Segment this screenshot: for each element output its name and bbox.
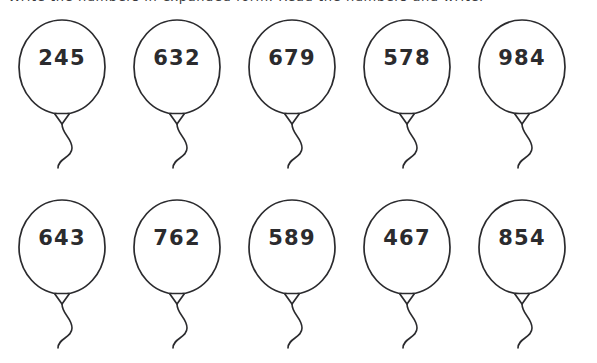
balloon-outline-icon [125,192,241,362]
balloon-number-label: 467 [355,228,459,249]
balloon-number-label: 632 [125,48,229,69]
worksheet-canvas: Write the numbers in expanded form. Read… [0,0,597,363]
balloon-number-label: 643 [10,228,114,249]
balloon-number-label: 245 [10,48,114,69]
balloon-number-label: 854 [470,228,574,249]
balloon[interactable]: 643 [10,192,126,362]
balloon-outline-icon [240,192,356,362]
balloon[interactable]: 467 [355,192,471,362]
header-instruction-text: Write the numbers in expanded form. Read… [8,0,484,4]
balloon-number-label: 984 [470,48,574,69]
balloon[interactable]: 679 [240,12,356,182]
balloon-outline-icon [355,12,471,182]
balloon[interactable]: 854 [470,192,586,362]
balloon[interactable]: 589 [240,192,356,362]
balloon-outline-icon [470,192,586,362]
balloon-number-label: 679 [240,48,344,69]
balloon[interactable]: 578 [355,12,471,182]
balloon[interactable]: 632 [125,12,241,182]
balloon-outline-icon [240,12,356,182]
balloon-row-top: 245 632 679 578 984 [0,12,597,182]
balloon-number-label: 589 [240,228,344,249]
balloon-number-label: 578 [355,48,459,69]
balloon[interactable]: 245 [10,12,126,182]
balloon[interactable]: 984 [470,12,586,182]
balloon-outline-icon [470,12,586,182]
balloon-outline-icon [125,12,241,182]
clipped-header-strip: Write the numbers in expanded form. Read… [0,0,597,7]
balloon[interactable]: 762 [125,192,241,362]
balloon-outline-icon [10,192,126,362]
balloon-row-bottom: 643 762 589 467 854 [0,192,597,362]
balloon-outline-icon [355,192,471,362]
balloon-number-label: 762 [125,228,229,249]
balloon-outline-icon [10,12,126,182]
